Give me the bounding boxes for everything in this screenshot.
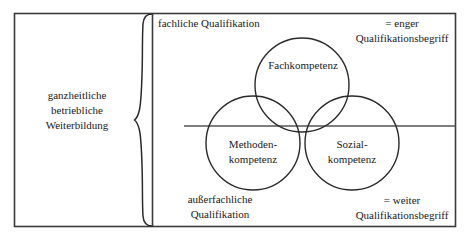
label-ganzheitliche-betriebliche-weiterbildung: ganzheitliche betriebliche Weiterbildung [18, 88, 136, 133]
circle-fachkompetenz [255, 38, 349, 132]
label-fachkompetenz: Fachkompetenz [256, 58, 350, 72]
label-ausserfachliche-qualifikation: außerfachliche Qualifikation [160, 192, 280, 222]
diagram-root: ganzheitliche betriebliche Weiterbildung… [0, 0, 470, 244]
curly-brace-icon [135, 14, 153, 226]
label-weiter-qualifikationsbegriff: = weiter Qualifikationsbegriff [348, 193, 456, 223]
label-methodenkompetenz: Methoden- kompetenz [206, 137, 300, 167]
label-sozialkompetenz: Sozial- kompetenz [305, 137, 399, 167]
label-enger-qualifikationsbegriff: = enger Qualifikationsbegriff [348, 16, 456, 46]
label-fachliche-qualifikation: fachliche Qualifikation [158, 16, 298, 30]
